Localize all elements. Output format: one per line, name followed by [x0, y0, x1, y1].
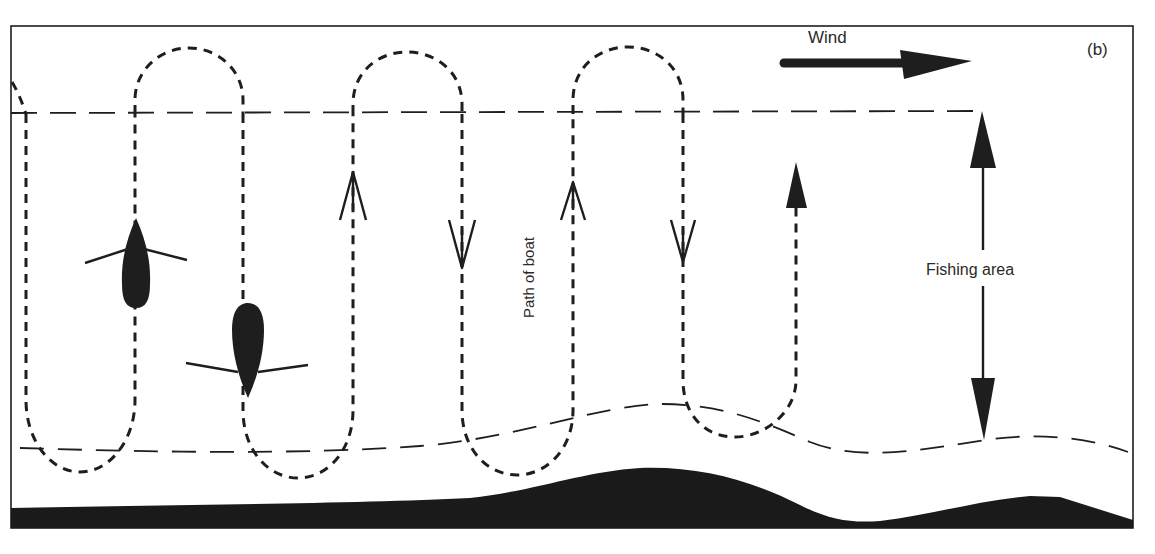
surface-dashed-line [11, 111, 982, 113]
panel-label: (b) [1087, 40, 1108, 60]
path-of-boat-label: Path of boat [520, 237, 537, 318]
fishing-diagram: Wind (b) Fishing area Path of boat [0, 0, 1155, 554]
boat-icon [186, 303, 308, 398]
wind-label: Wind [808, 28, 847, 48]
arrow-up-icon [340, 172, 366, 220]
wind-arrow-icon [784, 50, 972, 79]
path-direction-arrows [340, 172, 695, 268]
seabed-shape [11, 468, 1133, 528]
fishing-area-label: Fishing area [926, 259, 1014, 281]
arrow-up-solid-icon [786, 162, 807, 208]
arrow-up-icon [561, 182, 585, 220]
boat-icon [85, 218, 187, 308]
